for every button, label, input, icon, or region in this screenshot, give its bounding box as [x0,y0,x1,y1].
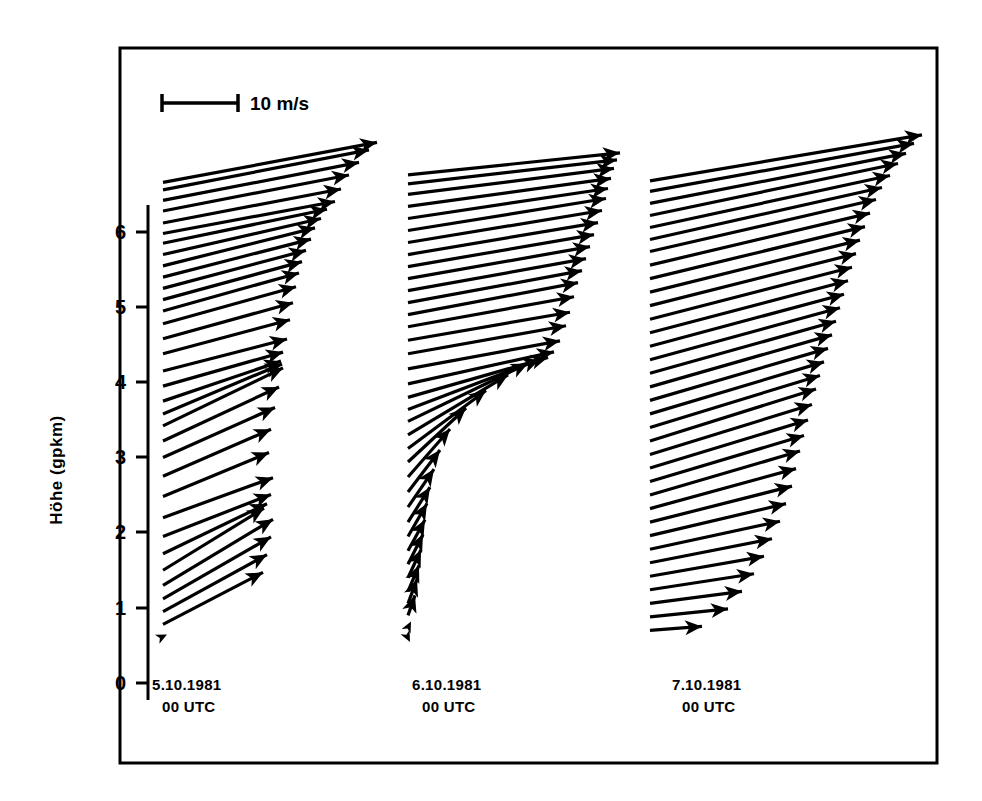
axis-tick-label-4: 4 [115,371,127,393]
profile-date-label-3: 7.10.1981 [672,676,741,693]
axis-tick-label-0: 0 [115,672,126,694]
wind-profile-chart: 10 m/s 6543210 Höhe (gpkm) 5.10.198100 U… [0,0,982,801]
profile-date-label-2: 6.10.1981 [412,676,481,693]
axis-tick-label-3: 3 [115,446,126,468]
scale-bar-label: 10 m/s [250,93,309,114]
axis-tick-label-1: 1 [115,597,126,619]
wind-profile-figure: 10 m/s 6543210 Höhe (gpkm) 5.10.198100 U… [0,0,982,801]
axis-tick-label-2: 2 [115,521,126,543]
profile-time-label-3: 00 UTC [682,698,735,715]
profile-time-label-2: 00 UTC [422,698,475,715]
profile-time-label-1: 00 UTC [162,698,215,715]
profile-date-label-1: 5.10.1981 [152,676,221,693]
axis-tick-label-6: 6 [115,221,126,243]
axis-title: Höhe (gpkm) [47,415,66,524]
axis-tick-label-5: 5 [115,296,126,318]
